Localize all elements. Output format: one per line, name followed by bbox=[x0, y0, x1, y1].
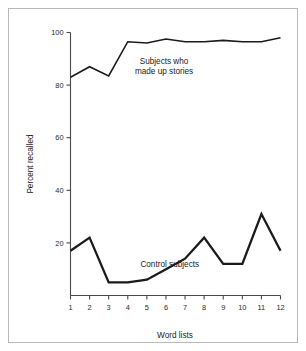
x-axis-title: Word lists bbox=[157, 331, 193, 340]
x-tick-label: 5 bbox=[145, 303, 149, 312]
stories-annotation-line2: made up stories bbox=[135, 67, 193, 76]
x-tick-label: 4 bbox=[126, 303, 130, 312]
y-tick-label: 80 bbox=[55, 81, 63, 90]
x-tick-label: 12 bbox=[276, 303, 284, 312]
series-line-control bbox=[71, 214, 281, 282]
x-tick-label: 11 bbox=[258, 303, 266, 312]
y-tick-label: 60 bbox=[55, 133, 63, 142]
x-tick-label: 2 bbox=[88, 303, 92, 312]
x-tick-label: 8 bbox=[202, 303, 206, 312]
line-chart-svg: 20406080100 123456789101112 Subjects who… bbox=[0, 0, 306, 351]
annotation-group: Subjects who made up stories Control sub… bbox=[135, 57, 199, 269]
x-tick-label: 7 bbox=[183, 303, 187, 312]
x-tick-label: 3 bbox=[107, 303, 111, 312]
y-tick-label: 100 bbox=[51, 28, 63, 37]
chart-plot-area: 20406080100 123456789101112 Subjects who… bbox=[0, 0, 306, 351]
control-annotation: Control subjects bbox=[140, 260, 199, 269]
x-tick-label: 6 bbox=[164, 303, 168, 312]
x-tick-label: 9 bbox=[221, 303, 225, 312]
x-tick-label: 1 bbox=[68, 303, 72, 312]
stories-annotation-line1: Subjects who bbox=[140, 57, 189, 66]
y-tick-group: 20406080100 bbox=[51, 28, 70, 247]
y-tick-label: 40 bbox=[55, 186, 63, 195]
x-tick-group: 123456789101112 bbox=[68, 296, 284, 312]
y-tick-label: 20 bbox=[55, 239, 63, 248]
x-axis: 123456789101112 bbox=[68, 296, 284, 312]
y-axis: 20406080100 bbox=[51, 28, 70, 295]
y-axis-title: Percent recalled bbox=[26, 134, 35, 194]
x-tick-label: 10 bbox=[238, 303, 246, 312]
